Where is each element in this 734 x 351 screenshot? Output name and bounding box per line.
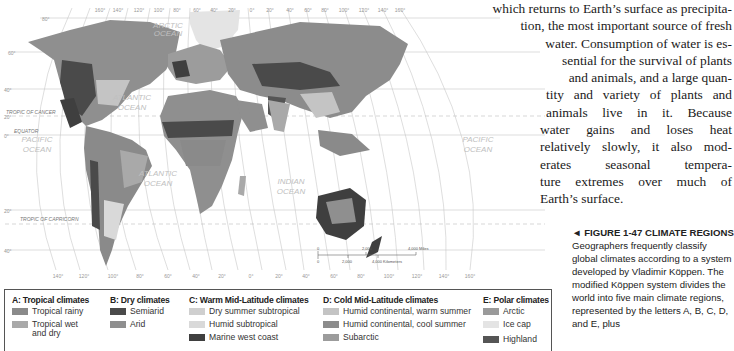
legend-swatch <box>483 321 499 328</box>
legend-swatch <box>189 308 205 315</box>
body-line: water gains and loses heat <box>540 121 732 138</box>
legend-group-tropical: A: Tropical climates Tropical rainy Trop… <box>12 295 92 342</box>
legend-heading: A: Tropical climates <box>12 295 92 305</box>
lon-label-top: 60° <box>304 7 312 13</box>
body-line: Earth’s surface. <box>540 190 732 207</box>
legend-label: Ice cap <box>503 320 531 329</box>
legend-label: Highland <box>503 335 537 344</box>
climate-legend: A: Tropical climates Tropical rainy Trop… <box>4 289 552 351</box>
tropic-of-capricorn-label: TROPIC OF CAPRICORN <box>20 216 79 222</box>
lat-label-0: 0° <box>4 133 9 139</box>
lon-label-bottom: 140° <box>439 273 449 279</box>
legend-item: Tropical wet and dry <box>12 320 92 338</box>
body-line: water. Consumption of water is es- <box>440 35 732 52</box>
lon-label-top: 40° <box>210 7 218 13</box>
legend-group-warm-mid-latitude: C: Warm Mid-Latitude climates Dry summer… <box>189 295 308 346</box>
body-line: erates seasonal tempera- <box>540 156 732 173</box>
legend-group-cold-mid-latitude: D: Cold Mid-Latitude climates Humid cont… <box>323 295 471 346</box>
lon-label-bottom: 160° <box>465 273 475 279</box>
legend-item: Subarctic <box>323 333 471 342</box>
legend-label: Subarctic <box>343 333 379 342</box>
lon-label-bottom: 140° <box>53 273 63 279</box>
body-line: relatively slowly, it also mod- <box>540 138 732 155</box>
scale-miles-end: 4,000 Miles <box>408 246 428 251</box>
lat-label-20n: 20° <box>4 114 12 120</box>
legend-item: Humid subtropical <box>189 320 308 329</box>
lon-label-top: 120° <box>359 7 369 13</box>
body-line: sential for the survival of plants <box>440 52 732 69</box>
legend-group-polar: E: Polar climates Arctic Ice cap Highlan… <box>483 295 549 348</box>
lat-label-60: 60° <box>8 50 16 56</box>
lat-label-40s: 40° <box>4 248 12 254</box>
lon-label-bottom: 20° <box>218 273 226 279</box>
legend-heading: D: Cold Mid-Latitude climates <box>323 295 471 305</box>
lon-label-bottom: 60° <box>330 273 338 279</box>
body-line: tion, the most important source of fresh <box>440 17 732 34</box>
body-line: tity and variety of plants and <box>546 86 732 103</box>
legend-heading: B: Dry climates <box>110 295 170 305</box>
legend-item: Ice cap <box>483 320 549 329</box>
lon-label-top: 40° <box>286 7 294 13</box>
scale-km-end: 4,000 Kilometers <box>372 259 402 264</box>
legend-swatch <box>323 308 339 315</box>
scale-km-mid: 2,000 <box>342 259 353 264</box>
legend-label: Humid continental, warm summer <box>343 307 471 316</box>
lon-label-top: 100° <box>154 7 164 13</box>
equator-label: EQUATOR <box>14 128 39 134</box>
atlantic-ocean-south-label: ATLANTICOCEAN <box>138 169 177 188</box>
legend-label: Dry summer subtropical <box>209 307 300 316</box>
lon-label-bottom: 100° <box>108 273 118 279</box>
pacific-ocean-west-label: PACIFICOCEAN <box>22 135 53 154</box>
lon-label-bottom: 80° <box>136 273 144 279</box>
lon-label-top: 140° <box>113 7 123 13</box>
legend-heading: E: Polar climates <box>483 295 549 305</box>
lon-label-top: 80° <box>321 7 329 13</box>
lon-label-bottom: 60° <box>164 273 172 279</box>
body-line: animals live in it. Because <box>546 104 732 121</box>
lon-label-bottom: 100° <box>384 273 394 279</box>
legend-item: Humid continental, cool summer <box>323 320 471 329</box>
lat-label-20s: 20° <box>4 208 12 214</box>
lon-label-top: 20° <box>266 7 274 13</box>
legend-label: Tropical wet and dry <box>32 320 92 338</box>
legend-swatch <box>189 321 205 328</box>
legend-group-dry: B: Dry climates Semiarid Arid <box>110 295 170 333</box>
legend-item: Semiarid <box>110 307 170 316</box>
body-line: and animals, and a large quan- <box>440 69 732 86</box>
lat-label-80: 80° <box>42 16 50 22</box>
lon-label-top: 0° <box>250 7 255 13</box>
caption-text: Geographers frequently classify global c… <box>572 240 731 329</box>
lon-label-bottom: 20° <box>275 273 283 279</box>
legend-item: Arctic <box>483 307 549 316</box>
body-paragraph: which returns to Earth’s surface as prec… <box>440 0 732 208</box>
figure-label: FIGURE 1-47 CLIMATE REGIONS <box>584 227 734 238</box>
legend-item: Tropical rainy <box>12 307 92 316</box>
figure-caption: ◄ FIGURE 1-47 CLIMATE REGIONS Geographer… <box>572 226 734 330</box>
lon-label-bottom: 0° <box>249 273 254 279</box>
caption-marker-icon: ◄ <box>572 227 582 238</box>
lon-label-bottom: 40° <box>302 273 310 279</box>
scale-miles-mid: 2,000 <box>362 246 373 251</box>
legend-label: Arid <box>130 320 145 329</box>
legend-item: Humid continental, warm summer <box>323 307 471 316</box>
legend-heading: C: Warm Mid-Latitude climates <box>189 295 308 305</box>
body-line: which returns to Earth’s surface as prec… <box>440 0 732 17</box>
legend-swatch <box>323 334 339 341</box>
arctic-ocean-label: ARCTICOCEAN <box>152 21 183 38</box>
legend-swatch <box>12 308 28 315</box>
lon-label-top: 60° <box>193 7 201 13</box>
legend-label: Humid subtropical <box>209 320 278 329</box>
legend-label: Tropical rainy <box>32 307 83 316</box>
lat-label-40n: 40° <box>4 87 12 93</box>
lon-label-top: 120° <box>134 7 144 13</box>
lon-label-top: 100° <box>339 7 349 13</box>
tropic-of-cancer-label: TROPIC OF CANCER <box>6 109 56 115</box>
legend-swatch <box>110 308 126 315</box>
body-line: ture extremes over much of <box>540 173 732 190</box>
legend-item: Marine west coast <box>189 333 308 342</box>
legend-label: Marine west coast <box>209 333 278 342</box>
lon-label-top: 80° <box>173 7 181 13</box>
legend-item: Highland <box>483 335 549 344</box>
legend-swatch <box>483 336 499 343</box>
legend-swatch <box>12 321 28 328</box>
